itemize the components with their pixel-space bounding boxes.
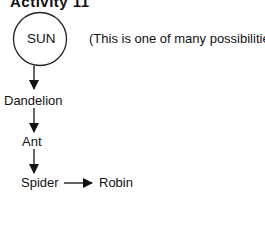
possibilities-note: (This is one of many possibilities.)	[89, 31, 265, 46]
node-sun: SUN	[27, 31, 56, 46]
node-spider: Spider	[21, 175, 59, 190]
node-dandelion: Dandelion	[4, 93, 63, 108]
node-robin: Robin	[99, 175, 133, 190]
node-ant: Ant	[22, 134, 42, 149]
